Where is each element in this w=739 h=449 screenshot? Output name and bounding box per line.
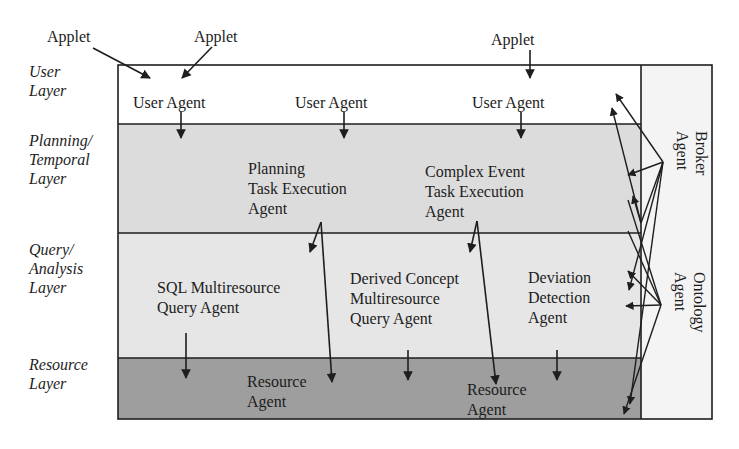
user-layer-label: User Layer (29, 62, 66, 100)
planning-task-execution-agent: Planning Task Execution Agent (248, 159, 347, 219)
architecture-diagram: Applet Applet Applet User Layer Planning… (0, 0, 739, 449)
resource-layer-label: Resource Layer (29, 355, 88, 393)
ontology-agent-label: Ontology Agent (671, 272, 709, 332)
user-agent-2: User Agent (295, 93, 367, 113)
applet-label-1: Applet (47, 28, 91, 46)
diagram-graphics (0, 0, 739, 449)
complex-event-task-execution-agent: Complex Event Task Execution Agent (425, 162, 525, 222)
planning-layer-label: Planning/ Temporal Layer (29, 131, 92, 188)
query-layer-label: Query/ Analysis Layer (29, 240, 83, 297)
deviation-detection-agent: Deviation Detection Agent (528, 268, 591, 328)
resource-layer-band (118, 358, 641, 419)
applet-label-2: Applet (194, 28, 238, 46)
resource-agent-2: Resource Agent (467, 380, 527, 420)
user-agent-3: User Agent (472, 93, 544, 113)
resource-agent-1: Resource Agent (247, 372, 307, 412)
derived-concept-multiresource-query-agent: Derived Concept Multiresource Query Agen… (350, 269, 459, 329)
sql-multiresource-query-agent: SQL Multiresource Query Agent (157, 278, 280, 318)
applet-label-3: Applet (491, 31, 535, 49)
broker-agent-label: Broker Agent (673, 131, 711, 175)
user-agent-1: User Agent (133, 93, 205, 113)
planning-layer-band (118, 124, 641, 233)
